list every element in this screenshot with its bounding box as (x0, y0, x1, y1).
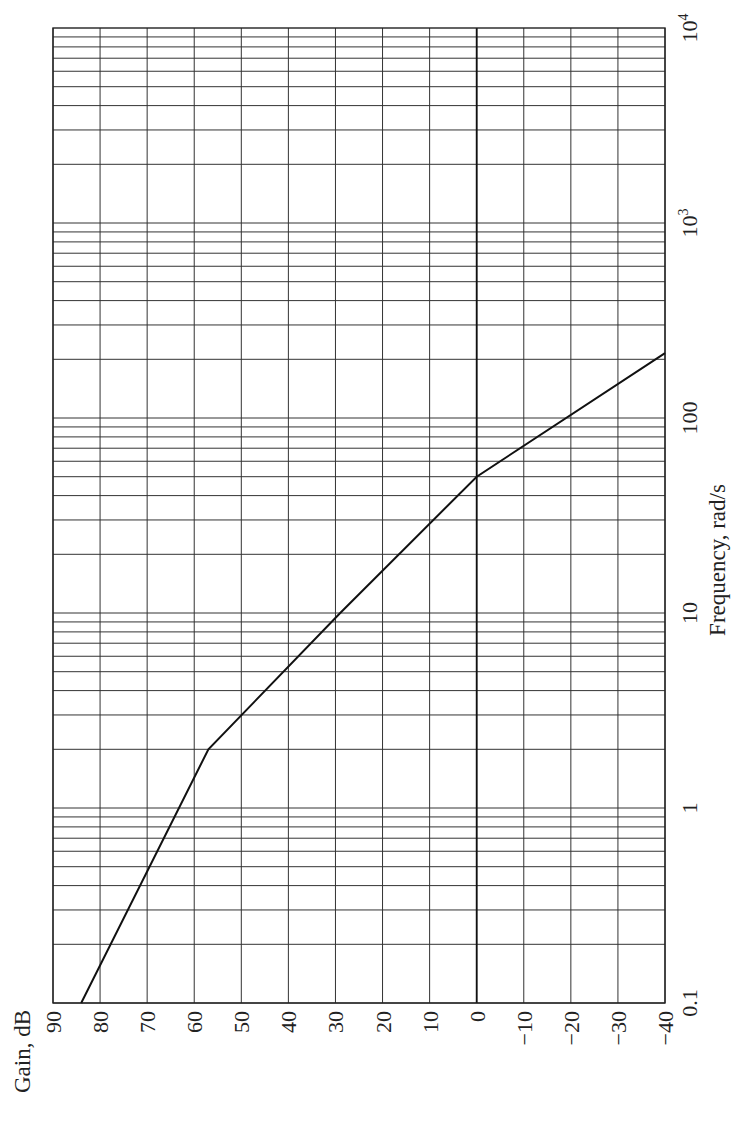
gain-axis-title: Gain, dB (10, 1010, 35, 1093)
gain-tick-label: 40 (276, 1011, 301, 1033)
gain-tick-labels: 9080706050403020100−10−20−30−40 (41, 1011, 678, 1045)
gain-tick-label: −30 (606, 1011, 631, 1045)
frequency-tick-label: 10 (677, 602, 702, 624)
gain-tick-label: 90 (41, 1011, 66, 1033)
frequency-tick-label: 0.1 (677, 989, 702, 1017)
gain-tick-label: −40 (653, 1011, 678, 1045)
gain-tick-label: −20 (559, 1011, 584, 1045)
gain-tick-label: 10 (418, 1011, 443, 1033)
gain-tick-label: 50 (229, 1011, 254, 1033)
frequency-axis-title: Frequency, rad/s (705, 484, 730, 636)
gain-tick-label: −10 (512, 1011, 537, 1045)
gain-gridlines (53, 28, 665, 1003)
gain-tick-label: 0 (465, 1011, 490, 1022)
gain-tick-label: 80 (88, 1011, 113, 1033)
gain-tick-label: 70 (135, 1011, 160, 1033)
gain-tick-label: 30 (323, 1011, 348, 1033)
frequency-gridlines (53, 37, 665, 1003)
frequency-tick-label: 1 (677, 803, 702, 814)
frequency-tick-label: 104 (676, 14, 702, 43)
frequency-tick-label: 100 (677, 402, 702, 435)
frequency-tick-label: 103 (676, 209, 702, 238)
gain-tick-label: 20 (371, 1011, 396, 1033)
bode-magnitude-chart: 9080706050403020100−10−20−30−40 0.111010… (0, 0, 746, 1127)
magnitude-curve (81, 353, 665, 1003)
gain-tick-label: 60 (182, 1011, 207, 1033)
plot-frame (53, 28, 665, 1003)
frequency-tick-labels: 0.1110100103104 (676, 14, 702, 1017)
